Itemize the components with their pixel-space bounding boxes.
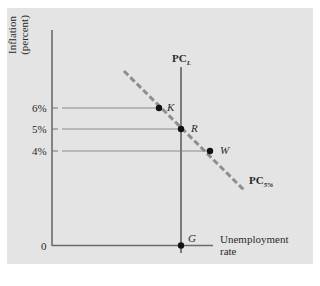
x-axis-label-line1: Unemployment <box>220 233 288 245</box>
point-k-label: K <box>167 101 174 113</box>
pc-long-run-label-main: PC <box>172 52 187 64</box>
point-w <box>207 148 213 154</box>
point-k <box>156 105 162 111</box>
tick-label-0: 0 <box>41 240 47 252</box>
pc-short-run-label: PC5% <box>249 174 273 191</box>
pc-short-run-label-sub: 5% <box>264 181 273 189</box>
tick-label-4: 4% <box>32 145 47 157</box>
y-axis-label: Inflation (percent) <box>6 0 30 70</box>
y-axis-label-line1: Inflation <box>6 0 18 70</box>
x-axis-label-line2: rate <box>220 245 288 257</box>
y-axis-label-line2: (percent) <box>18 0 30 70</box>
point-r-label: R <box>191 122 198 134</box>
point-w-label: W <box>220 144 229 156</box>
pc-long-run-label-sub: L <box>187 59 191 67</box>
pc-short-run-label-main: PC <box>249 174 264 186</box>
pc-long-run-label: PCL <box>172 52 191 69</box>
point-r <box>178 126 184 132</box>
tick-label-6: 6% <box>32 102 47 114</box>
point-g-label: G <box>188 232 196 244</box>
point-g <box>178 242 184 248</box>
tick-label-5: 5% <box>32 123 47 135</box>
pc-short-run-line <box>124 71 244 190</box>
x-axis-label: Unemployment rate <box>220 233 288 257</box>
